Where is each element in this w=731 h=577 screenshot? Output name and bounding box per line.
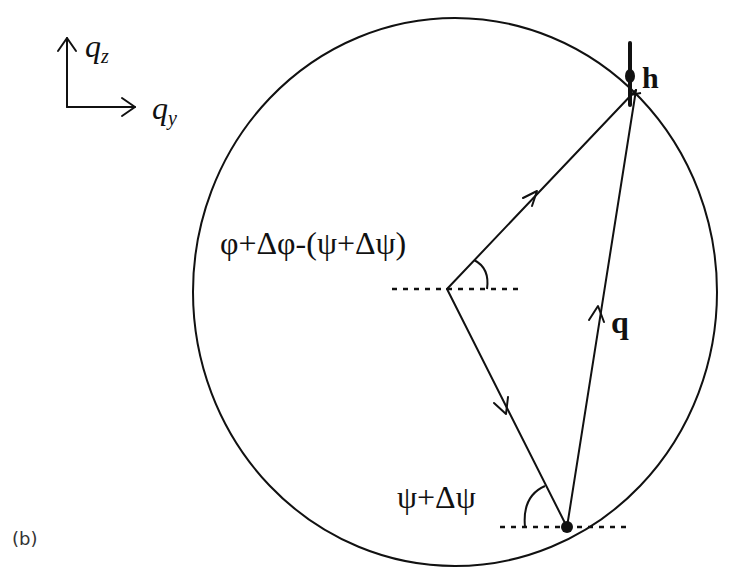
bottom-angle-arc [525, 486, 545, 527]
panel-label: (b) [12, 530, 37, 548]
qz-axis-label: qz [85, 30, 109, 62]
outgoing-arrowhead-icon [523, 191, 537, 206]
origin-point [561, 521, 573, 533]
diagram-canvas [0, 0, 731, 577]
outgoing-wave-vector [447, 90, 636, 289]
center-angle-label: φ+Δφ-(ψ+Δψ) [220, 227, 406, 259]
qy-axis-label: qy [152, 92, 177, 124]
diagram-figure: qz qy h q φ+Δφ-(ψ+Δψ) ψ+Δψ (b) [0, 0, 731, 577]
bottom-angle-label: ψ+Δψ [397, 481, 476, 513]
h-label: h [642, 63, 659, 93]
center-angle-arc [474, 260, 487, 289]
q-label: q [611, 306, 629, 338]
